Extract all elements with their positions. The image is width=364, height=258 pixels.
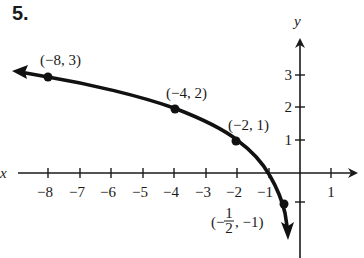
svg-text:1: 1	[285, 132, 293, 148]
svg-text:−8: −8	[37, 184, 53, 200]
svg-text:−6: −6	[100, 184, 116, 200]
svg-text:1: 1	[327, 184, 335, 200]
point-neg2-1	[232, 137, 241, 146]
svg-text:2: 2	[225, 220, 233, 236]
svg-text:−5: −5	[132, 184, 148, 200]
y-axis-label: y	[292, 13, 301, 29]
svg-text:−2: −2	[226, 184, 242, 200]
point-label-3: (−2, 1)	[228, 117, 269, 134]
point-label-1: (−8, 3)	[40, 52, 81, 69]
svg-text:(−: (−	[211, 214, 224, 231]
svg-text:1: 1	[225, 205, 233, 221]
svg-text:, −1): , −1)	[235, 214, 263, 231]
svg-text:−1: −1	[257, 184, 273, 200]
graph: x y −8 −7 −6 −5 −4 −3 −2 −1 1 3 2 1	[0, 0, 364, 258]
svg-text:2: 2	[285, 99, 293, 115]
point-neg8-3	[44, 73, 53, 82]
x-tick-labels: −8 −7 −6 −5 −4 −3 −2 −1 1	[37, 184, 335, 200]
svg-text:−3: −3	[195, 184, 211, 200]
y-tick-labels: 3 2 1	[285, 67, 293, 148]
point-neg4-2	[171, 105, 180, 114]
point-label-2: (−4, 2)	[166, 85, 207, 102]
svg-text:−4: −4	[163, 184, 179, 200]
point-label-4: (− 1 2 , −1)	[211, 205, 263, 236]
log-curve	[20, 72, 287, 226]
svg-text:−7: −7	[69, 184, 85, 200]
svg-text:3: 3	[285, 67, 293, 83]
x-axis-label: x	[0, 165, 7, 181]
point-neghalf-neg1	[280, 200, 289, 209]
